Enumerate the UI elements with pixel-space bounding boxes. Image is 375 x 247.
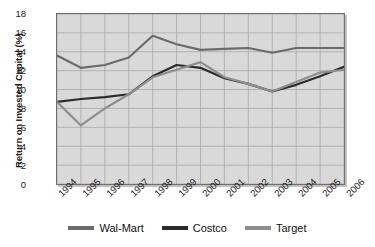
legend-label-walmart: Wal-Mart bbox=[99, 222, 143, 234]
x-tick-2006: 2006 bbox=[344, 176, 367, 199]
legend-label-costco: Costco bbox=[193, 222, 227, 234]
y-tick-4: 4 bbox=[0, 141, 26, 152]
y-tick-8: 8 bbox=[0, 103, 26, 114]
chart-legend: Wal-Mart Costco Target bbox=[0, 222, 375, 234]
y-tick-18: 18 bbox=[0, 8, 26, 19]
legend-swatch-target bbox=[245, 226, 271, 230]
legend-swatch-walmart bbox=[68, 226, 94, 230]
gridlines bbox=[57, 14, 344, 184]
legend-item-walmart[interactable]: Wal-Mart bbox=[68, 222, 143, 234]
y-tick-10: 10 bbox=[0, 84, 26, 95]
plot-canvas bbox=[57, 14, 344, 184]
legend-item-target[interactable]: Target bbox=[245, 222, 307, 234]
legend-label-target: Target bbox=[276, 222, 307, 234]
y-tick-0: 0 bbox=[0, 179, 26, 190]
y-tick-14: 14 bbox=[0, 46, 26, 57]
y-tick-12: 12 bbox=[0, 65, 26, 76]
y-axis-title: Return on Invested Capital (%) bbox=[13, 21, 24, 181]
y-tick-2: 2 bbox=[0, 160, 26, 171]
legend-swatch-costco bbox=[162, 226, 188, 230]
y-tick-16: 16 bbox=[0, 27, 26, 38]
roic-line-chart: Return on Invested Capital (%) 18 16 14 … bbox=[0, 0, 375, 247]
plot-area bbox=[56, 13, 345, 185]
y-tick-6: 6 bbox=[0, 122, 26, 133]
legend-item-costco[interactable]: Costco bbox=[162, 222, 227, 234]
